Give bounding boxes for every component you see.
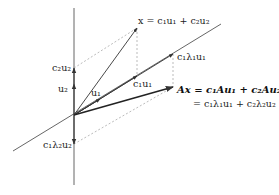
vector-u1 — [74, 99, 100, 115]
label-c2u2: c₂u₂ — [52, 62, 71, 73]
label-ax-line2: = c₁λ₁u₁ + c₂λ₂u₂ — [193, 98, 276, 109]
label-c1-lambda2-u2: c₁λ₂u₂ — [43, 139, 72, 150]
label-u1: u₁ — [91, 87, 101, 98]
label-x-eq: x = c₁u₁ + c₂u₂ — [138, 15, 210, 26]
eigen-diagram: x = c₁u₁ + c₂u₂ c₁λ₁u₁ c₁u₁ c₂u₂ u₂ u₁ A… — [0, 0, 279, 195]
vector-Ax — [74, 87, 173, 115]
label-c1-lambda1-u1: c₁λ₁u₁ — [177, 51, 206, 62]
dashed-c2l2u2-to-ax — [74, 87, 173, 144]
dashed-c2u2-to-x — [74, 28, 137, 68]
label-u2: u₂ — [58, 83, 68, 94]
label-c1u1: c₁u₁ — [133, 78, 152, 89]
label-ax-line1: Ax = c₁Au₁ + c₂Au₂ — [176, 84, 279, 95]
vector-x — [74, 28, 137, 115]
